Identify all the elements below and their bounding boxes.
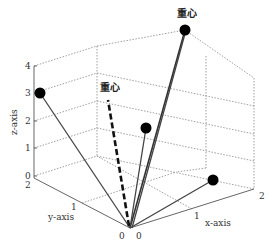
vector-top-2 [132,30,186,228]
point-middle [141,123,152,134]
z-axis-label: z-axis [9,109,19,135]
z-tick-1: 1 [25,143,31,153]
vector-right [130,180,213,228]
diagram-3d: 重心 重心 4 3 2 1 0 2 1 0 0 1 2 z-axis y-axi… [0,0,270,247]
point-right [208,175,219,186]
plot-canvas: 重心 重心 4 3 2 1 0 2 1 0 0 1 2 z-axis y-axi… [0,0,270,247]
vector-left [40,93,130,228]
x-tick-1: 1 [194,211,200,221]
axes [34,66,254,228]
point-left [35,88,46,99]
vectors [40,30,213,228]
z-tick-2: 2 [25,116,31,126]
y-tick-2: 2 [25,180,31,190]
z-tick-4: 4 [25,61,31,71]
points [35,25,219,186]
centroid-dashed-vector [108,100,129,226]
x-axis-label: x-axis [205,218,231,228]
annotation-dashed: 重心 [100,81,120,93]
vector-top-1 [130,30,185,228]
x-tick-0: 0 [136,231,142,241]
x-tick-2: 2 [259,191,265,201]
annotation-top: 重心 [177,7,197,19]
point-top [180,25,191,36]
y-tick-1: 1 [71,202,77,212]
y-axis-label: y-axis [47,212,74,222]
z-tick-3: 3 [25,88,31,98]
x-axis-line [130,189,254,228]
y-tick-0: 0 [119,231,125,241]
